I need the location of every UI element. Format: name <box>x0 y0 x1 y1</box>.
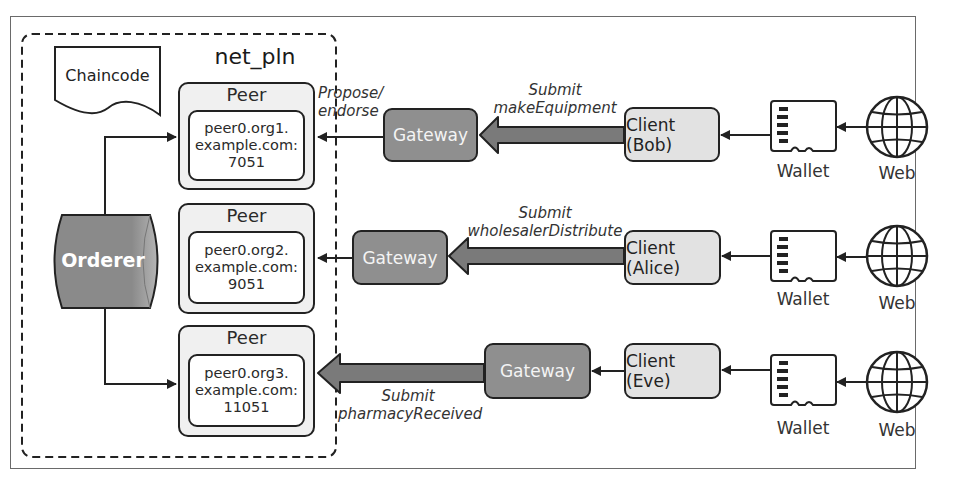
peer-title: Peer <box>178 84 315 105</box>
submit-arrow-alice <box>449 238 624 274</box>
wallet-label: Wallet <box>768 289 838 309</box>
orderer-to-peer1-line <box>105 137 176 215</box>
gateway-node-alice: Gateway <box>352 230 448 285</box>
peer-port: 11051 <box>195 399 298 416</box>
globe-icon <box>867 97 927 157</box>
wallet-label: Wallet <box>768 161 838 181</box>
peer-address-line: peer0.org3. <box>195 365 298 382</box>
sd-card-icon <box>771 355 836 405</box>
wallet-label: Wallet <box>768 418 838 438</box>
chaincode-label: Chaincode <box>55 66 160 85</box>
submit-label-alice: Submit wholesalerDistribute <box>465 204 625 240</box>
peer-title: Peer <box>178 205 315 226</box>
peer-address-org2: peer0.org2. example.com: 9051 <box>188 231 305 304</box>
client-node-bob: Client (Bob) <box>624 107 720 162</box>
sd-card-icon <box>771 101 836 151</box>
orderer-to-peer3-line <box>105 308 176 384</box>
peer-address-line: peer0.org1. <box>195 120 298 137</box>
web-label: Web <box>867 163 927 183</box>
submit-label-bob: Submit makeEquipment <box>485 81 625 117</box>
submit-arrow-bob <box>480 117 624 153</box>
peer-port: 7051 <box>195 154 298 171</box>
globe-icon <box>867 352 927 412</box>
web-label: Web <box>867 293 927 313</box>
globe-icon <box>867 226 927 286</box>
peer-port: 9051 <box>195 276 298 293</box>
orderer-label: Orderer <box>47 249 159 271</box>
peer-address-line: example.com: <box>195 137 298 154</box>
peer-address-org1: peer0.org1. example.com: 7051 <box>188 110 305 181</box>
peer-address-line: example.com: <box>195 259 298 276</box>
gateway-node-bob: Gateway <box>383 108 478 162</box>
peer-address-org3: peer0.org3. example.com: 11051 <box>188 354 305 427</box>
network-title: net_pln <box>200 44 310 69</box>
client-node-eve: Client (Eve) <box>624 343 721 399</box>
client-node-alice: Client (Alice) <box>624 230 721 285</box>
endorse-label: Propose/ endorse <box>318 84 384 120</box>
gateway-node-eve: Gateway <box>484 343 591 399</box>
peer-address-line: peer0.org2. <box>195 242 298 259</box>
peer-title: Peer <box>178 327 315 348</box>
submit-label-eve: Submit pharmacyReceived <box>338 387 478 423</box>
sd-card-icon <box>771 231 836 281</box>
peer-address-line: example.com: <box>195 382 298 399</box>
web-label: Web <box>867 420 927 440</box>
